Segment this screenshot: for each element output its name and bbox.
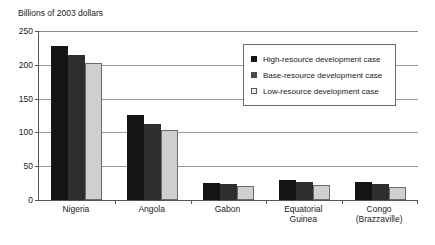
y-axis-tick-label: 0 [28, 196, 33, 205]
x-axis-label-line: Gabon [190, 204, 266, 214]
bar-chart-figure: Billions of 2003 dollars 050100150200250… [0, 0, 435, 245]
bar-group [115, 31, 191, 200]
y-axis-title: Billions of 2003 dollars [18, 8, 103, 18]
y-axis-tick [35, 200, 39, 201]
x-axis-tick [417, 200, 418, 204]
bar [68, 55, 85, 200]
x-axis-labels: NigeriaAngolaGabonEquatorialGuineaCongo(… [38, 204, 417, 224]
legend-item-label: High-resource development case [263, 55, 380, 64]
x-axis-label: Nigeria [38, 204, 114, 224]
y-axis-tick-label: 200 [19, 60, 33, 69]
bar [313, 185, 330, 200]
x-axis-label: Congo(Brazzaville) [341, 204, 417, 224]
x-axis-label-line: Congo [341, 204, 417, 214]
bar [355, 182, 372, 200]
bar [144, 124, 161, 200]
y-axis-tick-label: 150 [19, 94, 33, 103]
bar [51, 46, 68, 200]
y-axis-tick-label: 250 [19, 27, 33, 36]
bar [279, 180, 296, 200]
legend-item-label: Low-resource development case [263, 87, 379, 96]
bar [372, 184, 389, 200]
legend-item: Low-resource development case [251, 83, 387, 99]
x-axis-label: Gabon [190, 204, 266, 224]
x-axis-label: EquatorialGuinea [265, 204, 341, 224]
y-axis-tick-label: 50 [24, 162, 33, 171]
bar [127, 115, 144, 200]
legend-item: Base-resource development case [251, 67, 387, 83]
x-axis-label-line: Equatorial [265, 204, 341, 214]
bar [85, 63, 102, 200]
bar [161, 130, 178, 200]
legend-item: High-resource development case [251, 51, 387, 67]
legend-swatch-high [251, 56, 257, 62]
bar [203, 183, 220, 200]
legend-item-label: Base-resource development case [263, 71, 382, 80]
bar [296, 182, 313, 200]
legend-swatch-low [251, 88, 257, 94]
bar [237, 186, 254, 200]
bar [220, 184, 237, 200]
bar-group [39, 31, 115, 200]
legend-swatch-base [251, 72, 257, 78]
x-axis-label-line: Guinea [265, 214, 341, 224]
chart-legend: High-resource development caseBase-resou… [243, 44, 396, 106]
x-axis-label: Angola [114, 204, 190, 224]
x-axis-label-line: Nigeria [38, 204, 114, 214]
y-axis-tick-label: 100 [19, 128, 33, 137]
bar [389, 187, 406, 200]
x-axis-label-line: Angola [114, 204, 190, 214]
x-axis-label-line: (Brazzaville) [341, 214, 417, 224]
